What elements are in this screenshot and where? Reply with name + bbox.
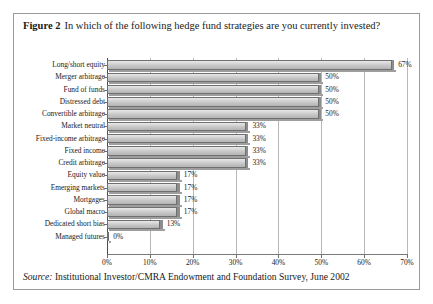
chart-bar-row: Managed futures0% [107, 231, 407, 243]
bar-fill [107, 207, 180, 216]
x-tick-label: 50% [315, 258, 329, 267]
bar-value-label: 17% [181, 194, 198, 206]
x-tick-label: 30% [229, 258, 243, 267]
category-label: Fixed-income arbitrage [36, 133, 105, 145]
x-tick-label: 20% [186, 258, 200, 267]
x-axis: 0%10%20%30%40%50%60%70% [107, 254, 407, 270]
chart-bar-row: Emerging markets17% [107, 182, 407, 194]
chart-bar-row: Mortgages17% [107, 194, 407, 206]
bar-value-label: 17% [181, 169, 198, 181]
bar-end-cap [176, 207, 180, 216]
bar-end-cap [318, 85, 322, 94]
bar-end-cap [176, 183, 180, 192]
bar [107, 134, 248, 143]
chart-bar-row: Credit arbitrage33% [107, 157, 407, 169]
bar-fill [107, 85, 321, 94]
figure-caption: Figure 2In which of the following hedge … [23, 19, 413, 32]
bar-value-label: 13% [164, 218, 181, 230]
category-label: Distressed debt [60, 96, 105, 108]
figure-caption-text: In which of the following hedge fund str… [64, 20, 380, 31]
bar-value-label: 50% [322, 71, 339, 83]
bar [107, 158, 248, 167]
bar [107, 109, 321, 118]
bar-value-label: 33% [249, 133, 266, 145]
source-text: Institutional Investor/CMRA Endowment an… [55, 271, 350, 282]
bar-fill [107, 146, 248, 155]
bar-value-label: 50% [322, 108, 339, 120]
chart-bar-row: Fund of funds50% [107, 84, 407, 96]
bar-value-label: 50% [322, 96, 339, 108]
bar-end-cap [245, 146, 249, 155]
bar-end-cap [245, 122, 249, 131]
category-label: Fixed income [65, 145, 105, 157]
bar-fill [107, 171, 180, 180]
bar-fill [107, 232, 109, 241]
bar-value-label: 67% [395, 59, 412, 71]
category-label: Merger arbitrage [55, 71, 105, 83]
bar [107, 97, 321, 106]
chart-bar-row: Convertible arbitrage50% [107, 108, 407, 120]
bar [107, 183, 180, 192]
gridline [407, 58, 408, 254]
bar-value-label: 17% [181, 206, 198, 218]
bar [107, 73, 321, 82]
bar-end-cap [318, 73, 322, 82]
x-tick-label: 70% [400, 258, 414, 267]
chart-bar-row: Global macro17% [107, 206, 407, 218]
bar [107, 195, 180, 204]
bar-fill [107, 183, 180, 192]
x-axis-line [107, 254, 407, 255]
bar [107, 171, 180, 180]
bar-fill [107, 109, 321, 118]
bar-fill [107, 97, 321, 106]
category-label: Fund of funds [64, 84, 105, 96]
chart-bar-row: Distressed debt50% [107, 96, 407, 108]
category-label: Credit arbitrage [58, 157, 105, 169]
bar-value-label: 33% [249, 157, 266, 169]
bar-value-label: 33% [249, 145, 266, 157]
category-label: Global macro [65, 206, 105, 218]
bar-fill [107, 158, 248, 167]
category-label: Long/short equity [52, 59, 105, 71]
x-tick-label: 10% [143, 258, 157, 267]
bar-value-label: 50% [322, 84, 339, 96]
x-tick-label: 0% [102, 258, 112, 267]
bar-end-cap [159, 220, 163, 229]
bar [107, 232, 109, 241]
bar-fill [107, 60, 394, 69]
bar-end-cap [245, 134, 249, 143]
bar-end-cap [245, 158, 249, 167]
chart-plot-area: Long/short equity67%Merger arbitrage50%F… [107, 58, 407, 254]
bar-end-cap [176, 195, 180, 204]
bar-fill [107, 122, 248, 131]
x-tick-label: 40% [272, 258, 286, 267]
bar-value-label: 0% [110, 231, 123, 243]
category-label: Emerging markets [51, 182, 105, 194]
chart-bar-row: Long/short equity67% [107, 59, 407, 71]
bar-end-cap [318, 97, 322, 106]
bar-value-label: 17% [181, 182, 198, 194]
x-tick-label: 60% [357, 258, 371, 267]
category-label: Convertible arbitrage [42, 108, 105, 120]
chart-bar-row: Merger arbitrage50% [107, 71, 407, 83]
bar-end-cap [176, 171, 180, 180]
bar [107, 207, 180, 216]
figure-number: Figure 2 [23, 20, 60, 31]
chart-bar-row: Fixed income33% [107, 145, 407, 157]
bar-end-cap [391, 60, 395, 69]
figure-frame: Figure 2In which of the following hedge … [13, 13, 420, 290]
chart-bar-row: Dedicated short bias13% [107, 218, 407, 230]
source-label: Source: [23, 271, 52, 282]
bar-value-label: 33% [249, 120, 266, 132]
bar-fill [107, 73, 321, 82]
bar [107, 60, 394, 69]
bar [107, 220, 163, 229]
bar [107, 146, 248, 155]
chart-bar-row: Equity value17% [107, 169, 407, 181]
bar-fill [107, 134, 248, 143]
category-label: Market neutral [61, 120, 105, 132]
chart-bar-row: Fixed-income arbitrage33% [107, 133, 407, 145]
bar-fill [107, 220, 163, 229]
source-note: Source: Institutional Investor/CMRA Endo… [23, 271, 350, 282]
category-label: Managed futures [55, 231, 105, 243]
